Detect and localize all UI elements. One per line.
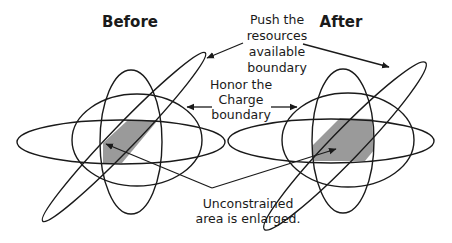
before-panel: Before — [17, 13, 225, 229]
after-unconstrained-area — [313, 118, 374, 161]
charge-label-line-3: boundary — [211, 107, 271, 122]
unconstrained-label-line-1: Unconstrained — [203, 196, 294, 211]
resources-arrow-right — [303, 44, 389, 67]
unconstrained-annotation: Unconstrained area is enlarged. — [106, 144, 336, 226]
resources-label-line-2: resources — [247, 28, 308, 43]
after-title: After — [320, 13, 363, 31]
unconstrained-label-line-2: area is enlarged. — [195, 211, 300, 226]
charge-annotation: Honor the Charge boundary — [187, 77, 297, 122]
resources-label-line-1: Push the — [250, 12, 304, 27]
resources-label-line-4: boundary — [247, 60, 307, 75]
resources-arrow-left — [207, 43, 243, 58]
unconstrained-arrow-before — [106, 144, 212, 188]
charge-label-line-2: Charge — [219, 92, 264, 107]
resources-label-line-3: available — [249, 44, 306, 59]
diagram-canvas: Before After Push the resources availabl… — [0, 0, 452, 243]
before-title: Before — [102, 13, 158, 31]
charge-label-line-1: Honor the — [210, 77, 273, 92]
